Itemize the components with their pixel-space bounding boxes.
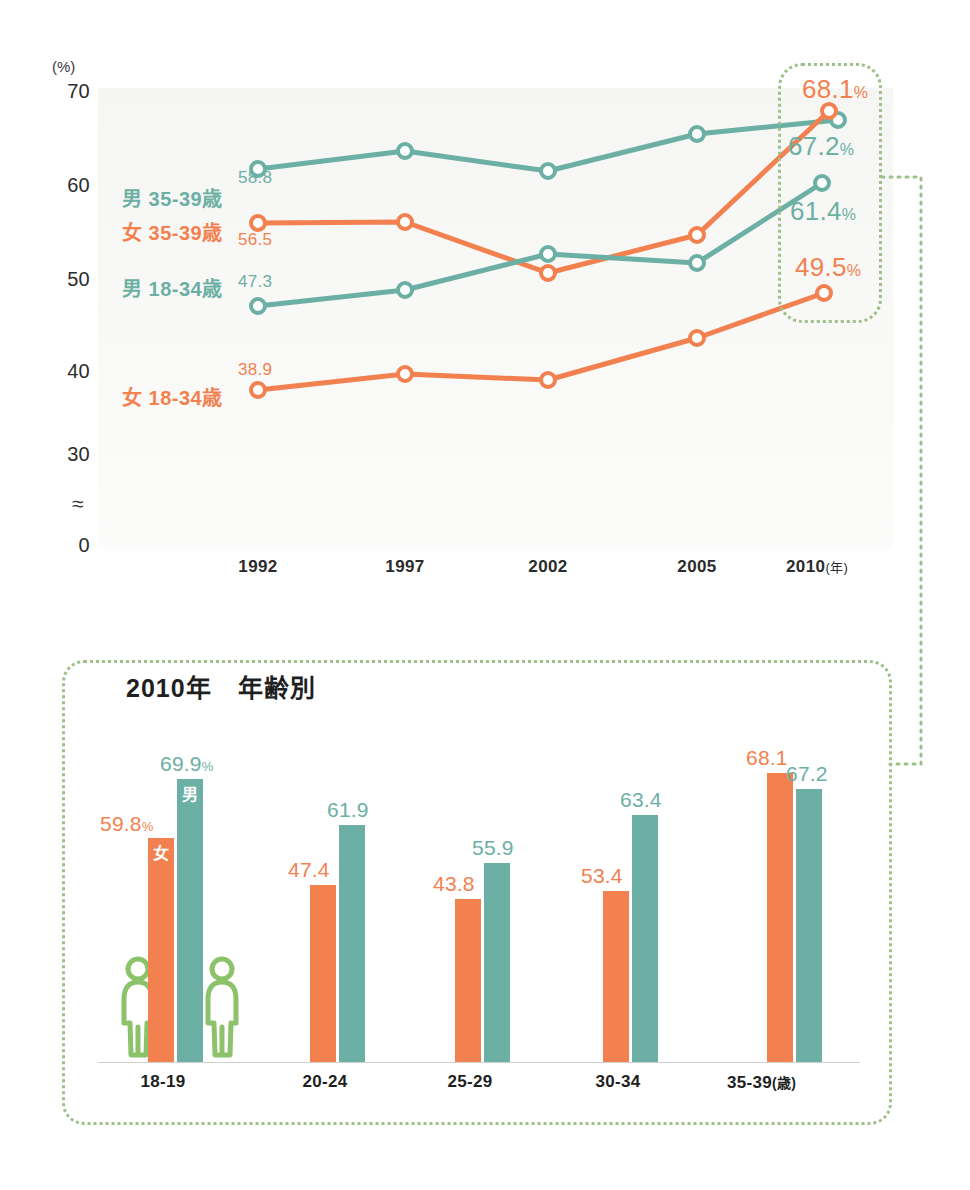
bar-male-35-39 bbox=[796, 789, 822, 1062]
bar-female-18-19 bbox=[148, 838, 174, 1062]
bar-category-25-29: 25-29 bbox=[420, 1072, 520, 1092]
bar-value-male-25-29: 55.9 bbox=[472, 836, 514, 860]
bar-value-female-18-19-unit: % bbox=[142, 819, 154, 834]
bar-category-35-39: 35-39(歳) bbox=[727, 1072, 857, 1093]
bar-chart-baseline bbox=[98, 1062, 860, 1063]
bar-male-20-24 bbox=[339, 825, 365, 1062]
bar-category-unit: (歳) bbox=[772, 1075, 796, 1091]
bar-value-female-20-24: 47.4 bbox=[288, 858, 330, 882]
infographic-root: (%) 70 60 50 40 30 ≈ 0 男 35-39歳 女 35-39歳… bbox=[0, 0, 970, 1190]
bar-female-35-39 bbox=[767, 773, 793, 1062]
bar-value-female-30-34: 53.4 bbox=[581, 864, 623, 888]
bar-value-male-20-24: 61.9 bbox=[327, 798, 369, 822]
bar-male-30-34 bbox=[632, 815, 658, 1062]
bar-value-male-35-39: 67.2 bbox=[786, 762, 828, 786]
bar-value-female-25-29: 43.8 bbox=[433, 872, 475, 896]
bar-marker-male: 男 bbox=[177, 781, 203, 805]
bar-category-18-19: 18-19 bbox=[113, 1072, 213, 1092]
bar-category-35-39-range: 35-39 bbox=[727, 1073, 772, 1092]
bar-marker-female: 女 bbox=[148, 840, 174, 864]
bar-category-20-24: 20-24 bbox=[275, 1072, 375, 1092]
bar-female-20-24 bbox=[310, 885, 336, 1062]
bar-male-18-19 bbox=[177, 779, 203, 1062]
bar-value-male-18-19-unit: % bbox=[202, 759, 214, 774]
bar-value-female-18-19: 59.8% bbox=[100, 812, 153, 836]
bar-value-male-18-19-number: 69.9 bbox=[160, 752, 202, 775]
bar-male-25-29 bbox=[484, 863, 510, 1062]
bar-value-male-18-19: 69.9% bbox=[160, 752, 213, 776]
bar-chart: 59.8% 69.9% 女 男 18-19 47.4 61.9 20-24 43… bbox=[0, 0, 970, 1190]
bar-value-male-30-34: 63.4 bbox=[620, 788, 662, 812]
bar-value-female-18-19-number: 59.8 bbox=[100, 812, 142, 835]
bar-category-30-34: 30-34 bbox=[568, 1072, 668, 1092]
bar-value-female-35-39: 68.1 bbox=[746, 746, 788, 770]
bar-female-25-29 bbox=[455, 899, 481, 1062]
bar-female-30-34 bbox=[603, 891, 629, 1062]
